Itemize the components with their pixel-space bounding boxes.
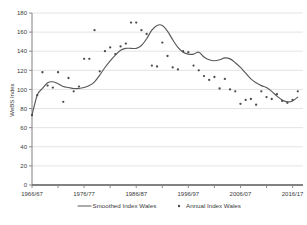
y-tick-label: 140 xyxy=(17,48,28,54)
data-point-marker xyxy=(78,85,80,87)
data-point-marker xyxy=(291,99,293,101)
legend-label-smoothed: Smoothed Index Wales xyxy=(93,202,157,209)
y-tick-label: 20 xyxy=(20,163,27,169)
data-point-marker xyxy=(271,98,273,100)
webs-index-line-chart: 020406080100120140160180 1966/671976/771… xyxy=(0,0,307,225)
data-point-marker xyxy=(286,102,288,104)
x-axis-group xyxy=(32,13,303,188)
y-axis-title: WeBS Index xyxy=(9,83,15,116)
data-point-marker xyxy=(192,64,194,66)
data-point-marker xyxy=(52,86,54,88)
data-point-marker xyxy=(146,33,148,35)
data-point-marker xyxy=(239,103,241,105)
data-point-marker xyxy=(265,96,267,98)
data-point-marker xyxy=(234,90,236,92)
data-point-marker xyxy=(119,45,121,47)
data-point-marker xyxy=(166,55,168,57)
data-point-marker xyxy=(218,87,220,89)
data-point-marker xyxy=(203,75,205,77)
data-point-marker xyxy=(177,68,179,70)
data-point-marker xyxy=(213,76,215,78)
data-point-marker xyxy=(276,93,278,95)
x-tick-labels-group: 1966/671976/771986/871996/972006/072016/… xyxy=(21,191,304,197)
gridlines-group xyxy=(32,13,303,166)
y-tick-label: 40 xyxy=(20,144,27,150)
data-point-marker xyxy=(46,84,48,86)
y-tick-label: 80 xyxy=(20,106,27,112)
data-point-marker xyxy=(73,90,75,92)
data-point-marker xyxy=(93,29,95,31)
data-point-marker xyxy=(57,71,59,73)
data-point-marker xyxy=(67,77,69,79)
data-point-marker xyxy=(135,21,137,23)
legend: Smoothed Index WalesAnnual Index Wales xyxy=(78,202,241,209)
y-tick-label: 60 xyxy=(20,125,27,131)
x-tick-label: 2006/07 xyxy=(230,191,252,197)
data-point-marker xyxy=(161,41,163,43)
x-tick-label: 1976/77 xyxy=(73,191,95,197)
data-point-marker xyxy=(250,98,252,100)
data-point-marker xyxy=(182,50,184,52)
data-point-marker xyxy=(31,114,33,116)
y-tick-labels-group: 020406080100120140160180 xyxy=(17,10,28,188)
chart-container: 020406080100120140160180 1966/671976/771… xyxy=(0,0,307,225)
data-point-marker xyxy=(187,51,189,53)
data-point-marker xyxy=(208,79,210,81)
data-point-marker xyxy=(99,70,101,72)
data-point-marker xyxy=(109,46,111,48)
legend-marker-swatch xyxy=(178,205,180,207)
annual-index-markers-group xyxy=(31,21,299,116)
data-point-marker xyxy=(125,42,127,44)
data-point-marker xyxy=(245,99,247,101)
data-point-marker xyxy=(156,65,158,67)
x-tick-label: 2016/17 xyxy=(282,191,304,197)
data-point-marker xyxy=(172,66,174,68)
y-tick-label: 180 xyxy=(17,10,28,16)
data-point-marker xyxy=(198,69,200,71)
data-point-marker xyxy=(281,100,283,102)
x-tick-label: 1986/87 xyxy=(125,191,147,197)
data-point-marker xyxy=(62,101,64,103)
y-tick-label: 120 xyxy=(17,68,28,74)
data-point-marker xyxy=(224,78,226,80)
legend-label-annual: Annual Index Wales xyxy=(186,202,241,209)
data-point-marker xyxy=(140,29,142,31)
data-point-marker xyxy=(83,58,85,60)
data-point-marker xyxy=(297,90,299,92)
y-tick-label: 160 xyxy=(17,29,28,35)
data-point-marker xyxy=(255,104,257,106)
data-point-marker xyxy=(104,50,106,52)
y-tick-label: 100 xyxy=(17,87,28,93)
data-point-marker xyxy=(229,88,231,90)
data-point-marker xyxy=(36,94,38,96)
x-tick-label: 1996/97 xyxy=(177,191,199,197)
data-point-marker xyxy=(130,21,132,23)
data-point-marker xyxy=(41,71,43,73)
data-point-marker xyxy=(114,53,116,55)
data-point-marker xyxy=(151,64,153,66)
data-point-marker xyxy=(260,90,262,92)
data-point-marker xyxy=(88,58,90,60)
x-tick-label: 1966/67 xyxy=(21,191,43,197)
y-tick-label: 0 xyxy=(24,182,28,188)
